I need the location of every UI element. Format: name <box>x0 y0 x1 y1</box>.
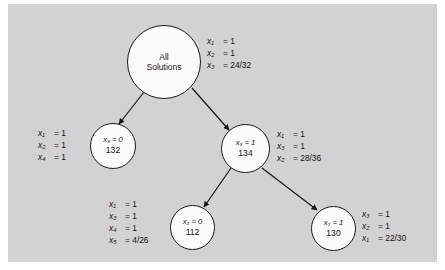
label-row: x₂= 1 <box>207 48 251 60</box>
label-rhs: = 1 <box>51 140 66 152</box>
node-right-label: x₁= 1 x₃= 1 x₂= 28/36 <box>277 129 321 165</box>
label-lhs: x₂ <box>207 48 220 60</box>
edge-root-to-right <box>192 88 229 130</box>
label-rhs: = 1 <box>51 152 66 164</box>
label-row: x₁= 1 <box>207 36 251 48</box>
node-right-title: x₃ = 1 <box>236 139 256 148</box>
node-bottom-left-label: x₁= 1 x₃= 1 x₄= 1 x₅= 4/26 <box>109 199 149 247</box>
node-right[interactable]: x₃ = 1 134 <box>221 124 270 173</box>
node-left-label: x₁= 1 x₂= 1 x₄= 1 <box>38 128 66 164</box>
label-row: x₃= 1 <box>277 141 321 153</box>
label-lhs: x₄ <box>109 223 122 235</box>
label-lhs: x₁ <box>109 199 122 211</box>
node-left-count: 132 <box>106 145 120 155</box>
edge-root-to-left <box>119 92 144 124</box>
node-bottom-right-count: 130 <box>326 228 340 238</box>
label-lhs: x₂ <box>362 221 375 233</box>
node-left-title: x₃ = 0 <box>103 136 123 145</box>
label-row: x₁= 22/30 <box>362 233 406 245</box>
label-rhs: = 1 <box>51 128 66 140</box>
label-rhs: = 28/36 <box>290 153 321 165</box>
label-row: x₃= 1 <box>362 209 406 221</box>
label-rhs: = 1 <box>122 199 137 211</box>
node-left[interactable]: x₃ = 0 132 <box>90 123 136 169</box>
label-row: x₃= 1 <box>109 211 149 223</box>
label-lhs: x₂ <box>38 140 51 152</box>
label-rhs: = 24/32 <box>220 60 251 72</box>
label-lhs: x₂ <box>277 153 290 165</box>
node-bottom-left[interactable]: x₂ = 0 112 <box>170 205 215 250</box>
label-rhs: = 1 <box>375 209 390 221</box>
node-bottom-left-title: x₂ = 0 <box>183 218 203 227</box>
node-root-title-line2: Solutions <box>147 62 182 72</box>
label-row: x₄= 1 <box>38 152 66 164</box>
node-right-count: 134 <box>238 148 252 158</box>
label-rhs: = 1 <box>220 48 235 60</box>
node-root-title-line1: All <box>159 52 168 62</box>
label-rhs: = 1 <box>290 141 305 153</box>
label-lhs: x₃ <box>277 141 290 153</box>
label-rhs: = 1 <box>122 223 137 235</box>
label-rhs: = 4/26 <box>122 235 149 247</box>
label-row: x₁= 1 <box>277 129 321 141</box>
label-rhs: = 22/30 <box>375 233 406 245</box>
label-lhs: x₃ <box>207 60 220 72</box>
label-rhs: = 1 <box>375 221 390 233</box>
label-row: x₁= 1 <box>109 199 149 211</box>
label-row: x₂= 28/36 <box>277 153 321 165</box>
node-root[interactable]: All Solutions <box>127 25 201 99</box>
label-lhs: x₁ <box>277 129 290 141</box>
node-root-label: x₁= 1 x₂= 1 x₃= 24/32 <box>207 36 251 72</box>
label-row: x₁= 1 <box>38 128 66 140</box>
node-bottom-right[interactable]: x₂ = 1 130 <box>311 206 356 251</box>
label-lhs: x₃ <box>362 209 375 221</box>
label-row: x₃= 24/32 <box>207 60 251 72</box>
node-bottom-right-title: x₂ = 1 <box>324 219 344 228</box>
label-row: x₅= 4/26 <box>109 235 149 247</box>
figure-canvas: All Solutions x₁= 1 x₂= 1 x₃= 24/32 x₃ =… <box>0 0 445 270</box>
label-lhs: x₁ <box>207 36 220 48</box>
label-lhs: x₄ <box>38 152 51 164</box>
label-lhs: x₅ <box>109 235 122 247</box>
label-rhs: = 1 <box>122 211 137 223</box>
label-row: x₂= 1 <box>362 221 406 233</box>
label-row: x₄= 1 <box>109 223 149 235</box>
label-rhs: = 1 <box>290 129 305 141</box>
label-lhs: x₃ <box>109 211 122 223</box>
label-rhs: = 1 <box>220 36 235 48</box>
edge-right-to-bottom-left <box>204 168 231 207</box>
label-lhs: x₁ <box>38 128 51 140</box>
edge-right-to-bottom-right <box>262 168 317 210</box>
node-bottom-left-count: 112 <box>186 227 200 237</box>
label-lhs: x₁ <box>362 233 375 245</box>
label-row: x₂= 1 <box>38 140 66 152</box>
node-bottom-right-label: x₃= 1 x₂= 1 x₁= 22/30 <box>362 209 406 245</box>
